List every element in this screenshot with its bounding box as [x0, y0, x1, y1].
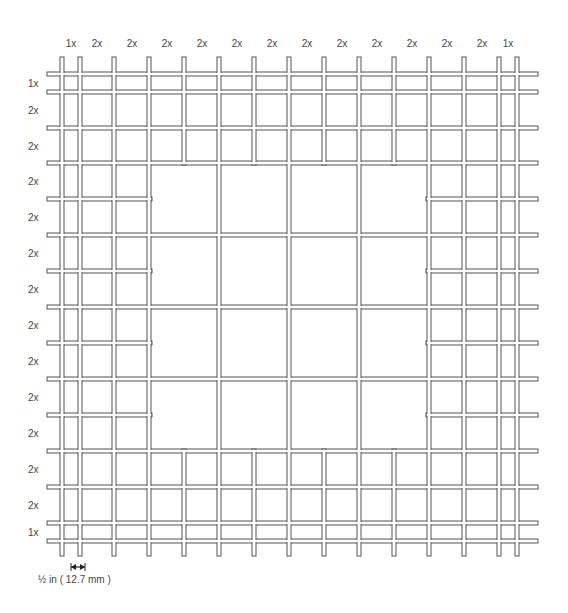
column-label: 1x — [503, 38, 514, 49]
row-label: 2x — [28, 212, 39, 223]
vertical-wire-short-bottom — [322, 449, 326, 556]
column-label: 2x — [197, 38, 208, 49]
column-label: 2x — [267, 38, 278, 49]
scale-label: ½ in ( 12.7 mm ) — [38, 574, 111, 585]
wire-mesh-grid — [0, 0, 568, 613]
row-label: 2x — [28, 284, 39, 295]
wire-mesh-diagram: 1x2x2x2x2x2x2x2x2x2x2x2x2x1x 1x2x2x2x2x2… — [0, 0, 568, 613]
column-label: 2x — [442, 38, 453, 49]
row-label: 2x — [28, 356, 39, 367]
column-label: 2x — [337, 38, 348, 49]
row-label: 2x — [28, 500, 39, 511]
column-label: 2x — [127, 38, 138, 49]
row-label: 2x — [28, 320, 39, 331]
row-label: 2x — [28, 105, 39, 116]
row-label: 2x — [28, 141, 39, 152]
column-label: 2x — [372, 38, 383, 49]
column-label: 2x — [302, 38, 313, 49]
vertical-wire-short-bottom — [252, 449, 256, 556]
row-label: 2x — [28, 392, 39, 403]
vertical-wire-short-bottom — [392, 449, 396, 556]
column-label: 2x — [162, 38, 173, 49]
vertical-wire-short-bottom — [182, 449, 186, 556]
column-label: 2x — [92, 38, 103, 49]
column-label: 2x — [477, 38, 488, 49]
row-label: 2x — [28, 428, 39, 439]
row-label: 1x — [28, 527, 39, 538]
row-label: 2x — [28, 464, 39, 475]
column-label: 1x — [66, 38, 77, 49]
column-label: 2x — [407, 38, 418, 49]
row-label: 1x — [28, 78, 39, 89]
row-label: 2x — [28, 248, 39, 259]
double-arrow-icon — [71, 563, 85, 571]
column-label: 2x — [232, 38, 243, 49]
row-label: 2x — [28, 176, 39, 187]
